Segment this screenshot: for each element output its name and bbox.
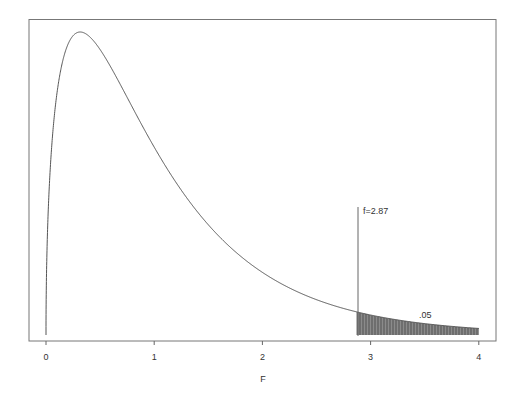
x-tick-label: 2 xyxy=(260,352,265,362)
critical-value-label: f=2.87 xyxy=(363,206,388,216)
area-label: .05 xyxy=(419,310,432,320)
x-axis-label: F xyxy=(260,374,266,384)
x-tick-label: 1 xyxy=(152,352,157,362)
plot-frame xyxy=(29,20,496,342)
f-distribution-chart: 01234 f=2.87 .05 F xyxy=(0,0,523,399)
x-tick-label: 3 xyxy=(368,352,373,362)
x-tick-label: 0 xyxy=(43,352,48,362)
density-curve xyxy=(46,32,479,335)
x-tick-label: 4 xyxy=(476,352,481,362)
x-axis: 01234 xyxy=(43,341,481,362)
